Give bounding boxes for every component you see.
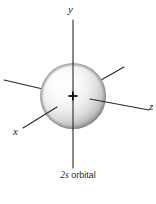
figure-caption: 2s orbital (0, 170, 156, 180)
axis-label-x: x (13, 126, 18, 137)
caption-orbital-word: orbital (69, 170, 96, 180)
axis-label-z: z (149, 101, 153, 112)
caption-orbital-name: 2s (60, 170, 68, 180)
orbital-diagram: y z x 2s orbital (0, 0, 156, 204)
axis-label-y: y (68, 4, 73, 15)
